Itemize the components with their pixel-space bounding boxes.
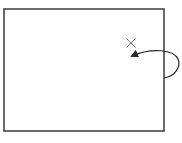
frame-rectangle [4,9,164,131]
curved-arrow-icon [132,51,179,78]
x-mark-icon [127,39,136,48]
diagram-canvas [0,0,182,143]
